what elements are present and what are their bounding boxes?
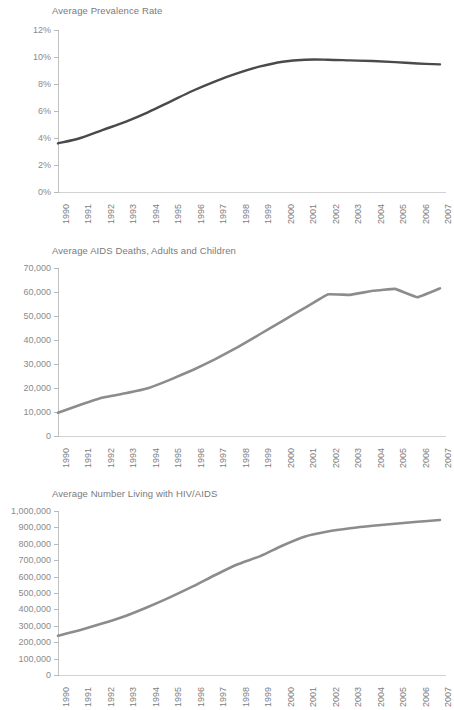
series-line-living-with-hiv xyxy=(0,485,454,710)
charts-page: Average Prevalence Rate 0%2%4%6%8%10%12%… xyxy=(0,0,454,710)
plot-area-living-with-hiv: 0100,000200,000300,000400,000500,000600,… xyxy=(0,485,454,710)
data-series-path xyxy=(58,288,440,412)
data-series-path xyxy=(58,520,440,636)
series-line-prevalence xyxy=(0,0,454,252)
chart-panel-aids-deaths: Average AIDS Deaths, Adults and Children… xyxy=(0,240,454,485)
chart-panel-living-with-hiv: Average Number Living with HIV/AIDS 0100… xyxy=(0,485,454,710)
series-line-aids-deaths xyxy=(0,240,454,496)
plot-area-prevalence: 0%2%4%6%8%10%12%199019911992199319941995… xyxy=(0,0,454,240)
plot-area-aids-deaths: 010,00020,00030,00040,00050,00060,00070,… xyxy=(0,240,454,485)
chart-panel-prevalence: Average Prevalence Rate 0%2%4%6%8%10%12%… xyxy=(0,0,454,240)
data-series-path xyxy=(58,60,440,144)
